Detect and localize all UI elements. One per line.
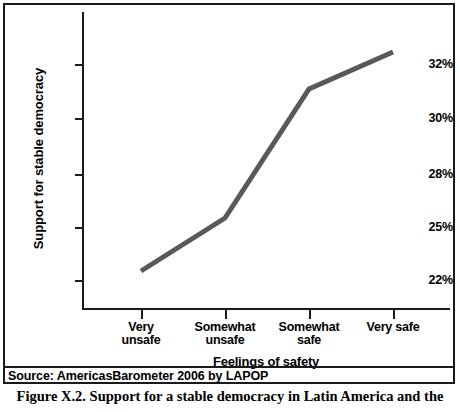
series-polyline (141, 52, 393, 271)
plot-area: 32% 30% 28% 25% 22% Very unsafe Somewhat… (5, 5, 453, 345)
source-note-row: Source: AmericasBarometer 2006 by LAPOP (5, 368, 453, 384)
figure-box: 32% 30% 28% 25% 22% Very unsafe Somewhat… (3, 3, 455, 384)
data-series-line (5, 5, 453, 345)
figure-caption: Figure X.2. Support for a stable democra… (0, 388, 460, 405)
source-note: Source: AmericasBarometer 2006 by LAPOP (5, 369, 268, 383)
chart-panel: 32% 30% 28% 25% 22% Very unsafe Somewhat… (5, 5, 453, 366)
